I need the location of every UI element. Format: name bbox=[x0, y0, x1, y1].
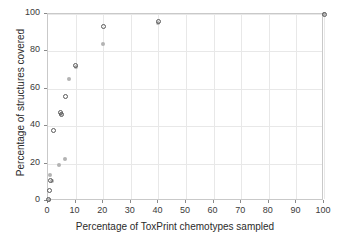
y-tick-mark bbox=[44, 50, 47, 51]
x-tick-label: 40 bbox=[142, 205, 172, 216]
x-tick-label: 50 bbox=[170, 205, 200, 216]
x-tick-mark bbox=[323, 200, 324, 203]
data-point bbox=[57, 163, 61, 167]
data-point bbox=[101, 24, 106, 29]
x-tick-mark bbox=[185, 200, 186, 203]
x-tick-mark bbox=[157, 200, 158, 203]
x-tick-mark bbox=[240, 200, 241, 203]
data-point bbox=[67, 77, 71, 81]
data-point bbox=[322, 12, 327, 17]
data-point bbox=[63, 157, 67, 161]
x-tick-mark bbox=[213, 200, 214, 203]
gridline-horizontal bbox=[48, 126, 322, 127]
data-point bbox=[59, 112, 64, 117]
x-axis-label: Percentage of ToxPrint chemotypes sample… bbox=[0, 221, 350, 232]
gridline-vertical bbox=[76, 14, 77, 199]
gridline-vertical bbox=[241, 14, 242, 199]
x-tick-label: 80 bbox=[253, 205, 283, 216]
x-tick-mark bbox=[295, 200, 296, 203]
gridline-vertical bbox=[296, 14, 297, 199]
data-point bbox=[47, 188, 52, 193]
x-tick-label: 10 bbox=[60, 205, 90, 216]
gridline-vertical bbox=[324, 14, 325, 199]
x-tick-mark bbox=[75, 200, 76, 203]
data-point bbox=[48, 178, 53, 183]
gridline-horizontal bbox=[48, 164, 322, 165]
gridline-vertical bbox=[131, 14, 132, 199]
data-point bbox=[51, 128, 56, 133]
plot-area bbox=[47, 13, 323, 200]
y-tick-mark bbox=[44, 125, 47, 126]
gridline-horizontal bbox=[48, 89, 322, 90]
gridline-horizontal bbox=[48, 51, 322, 52]
x-tick-label: 60 bbox=[198, 205, 228, 216]
x-tick-label: 70 bbox=[225, 205, 255, 216]
gridline-horizontal bbox=[48, 14, 322, 15]
y-tick-mark bbox=[44, 163, 47, 164]
x-tick-label: 90 bbox=[280, 205, 310, 216]
y-axis-label: Percentage of structures covered bbox=[15, 9, 26, 196]
gridline-vertical bbox=[269, 14, 270, 199]
x-tick-mark bbox=[102, 200, 103, 203]
data-point bbox=[73, 63, 78, 68]
x-tick-label: 20 bbox=[87, 205, 117, 216]
data-point bbox=[48, 173, 52, 177]
data-point bbox=[101, 42, 105, 46]
gridline-vertical bbox=[158, 14, 159, 199]
gridline-vertical bbox=[186, 14, 187, 199]
y-tick-mark bbox=[44, 88, 47, 89]
x-tick-label: 100 bbox=[308, 205, 338, 216]
y-tick-mark bbox=[44, 13, 47, 14]
x-tick-mark bbox=[130, 200, 131, 203]
data-point bbox=[156, 19, 161, 24]
x-tick-label: 30 bbox=[115, 205, 145, 216]
scatter-chart-figure: 0102030405060708090100 020406080100 Perc… bbox=[0, 0, 350, 243]
x-tick-label: 0 bbox=[32, 205, 62, 216]
data-point bbox=[46, 197, 51, 202]
x-tick-mark bbox=[268, 200, 269, 203]
gridline-vertical bbox=[214, 14, 215, 199]
data-point bbox=[63, 94, 68, 99]
